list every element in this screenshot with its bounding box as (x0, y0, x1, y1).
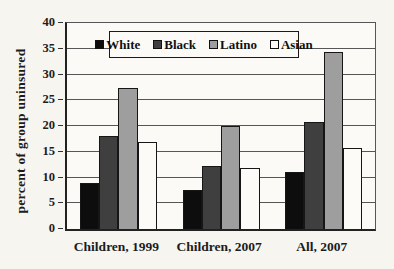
bar-asian-all-2007 (343, 148, 362, 229)
y-tick-label-35: 35 (24, 42, 55, 54)
bar-latino-all-2007 (324, 52, 343, 229)
bar-white-children-2007 (183, 190, 202, 229)
legend-label-white: White (106, 38, 140, 51)
y-tick-0 (58, 228, 63, 229)
legend-label-black: Black (164, 38, 196, 51)
legend-item-black: Black (153, 38, 196, 51)
y-tick-label-30: 30 (24, 68, 55, 80)
legend-swatch-asian (270, 40, 279, 49)
legend-label-latino: Latino (220, 38, 257, 51)
x-axis-label-children-1999: Children, 1999 (65, 239, 168, 255)
legend-item-latino: Latino (209, 38, 257, 51)
bar-white-all-2007 (285, 172, 304, 229)
y-tick-label-0: 0 (24, 222, 55, 234)
bar-black-all-2007 (304, 122, 323, 229)
y-tick-label-15: 15 (24, 145, 55, 157)
x-axis-label-all-2007: All, 2007 (270, 239, 373, 255)
bar-asian-children-2007 (240, 168, 259, 229)
bar-asian-children-1999 (138, 142, 157, 229)
plot-area: WhiteBlackLatinoAsian (65, 22, 376, 231)
y-tick-5 (58, 202, 63, 203)
legend-swatch-white (95, 40, 104, 49)
y-tick-35 (58, 48, 63, 49)
uninsured-rates-bar-chart: percent of group uninsured WhiteBlackLat… (0, 0, 394, 269)
bar-latino-children-2007 (221, 126, 240, 229)
bar-white-children-1999 (80, 183, 99, 229)
y-tick-label-5: 5 (24, 196, 55, 208)
y-tick-label-20: 20 (24, 119, 55, 131)
y-tick-label-40: 40 (24, 16, 55, 28)
y-tick-15 (58, 151, 63, 152)
y-tick-label-25: 25 (24, 93, 55, 105)
y-tick-10 (58, 177, 63, 178)
legend-item-white: White (95, 38, 140, 51)
bar-black-children-1999 (99, 136, 118, 229)
y-tick-20 (58, 125, 63, 126)
legend-item-asian: Asian (270, 38, 313, 51)
y-tick-25 (58, 99, 63, 100)
y-tick-40 (58, 22, 63, 23)
bar-latino-children-1999 (118, 88, 137, 229)
bar-black-children-2007 (202, 166, 221, 229)
x-axis-label-children-2007: Children, 2007 (168, 239, 271, 255)
legend: WhiteBlackLatinoAsian (109, 31, 299, 58)
legend-swatch-latino (209, 40, 218, 49)
legend-label-asian: Asian (281, 38, 313, 51)
legend-swatch-black (153, 40, 162, 49)
y-tick-label-10: 10 (24, 171, 55, 183)
y-tick-30 (58, 74, 63, 75)
